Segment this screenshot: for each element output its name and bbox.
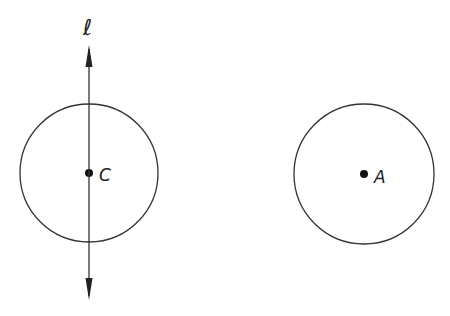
line-l-group: ℓ [82,15,93,300]
label-a: A [373,167,386,187]
diagram-canvas: C ℓ A [0,0,450,316]
arrowhead-down-icon [86,278,93,300]
label-c: C [99,165,111,185]
point-a [360,170,368,178]
circle-a-group: A [294,104,434,244]
label-l: ℓ [82,15,92,40]
arrowhead-up-icon [86,45,93,67]
